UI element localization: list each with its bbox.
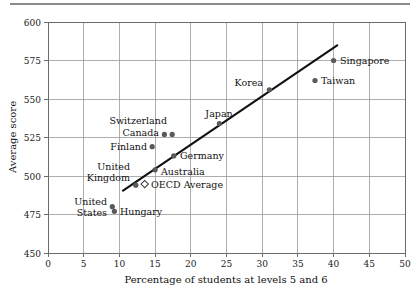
y-tick-label: 525 xyxy=(24,133,41,143)
x-tick-label: 30 xyxy=(256,259,268,269)
data-label-oecd-average: OECD Average xyxy=(151,179,223,190)
data-point-finland[interactable] xyxy=(150,144,155,149)
x-tick-label: 40 xyxy=(328,259,340,269)
data-label-japan: Japan xyxy=(204,108,232,119)
y-tick-label: 550 xyxy=(24,95,41,105)
data-point-oecd-average[interactable] xyxy=(141,180,148,187)
data-point-singapore[interactable] xyxy=(331,58,336,63)
data-label-taiwan: Taiwan xyxy=(321,75,355,86)
y-axis-title: Average score xyxy=(7,101,18,174)
data-label-singapore: Singapore xyxy=(340,55,390,66)
y-tick-label: 450 xyxy=(24,249,41,259)
data-label-finland: Finland xyxy=(110,141,147,152)
data-label-switzerland: Switzerland xyxy=(109,115,167,126)
data-label-united-states-line1: United xyxy=(74,196,107,207)
data-point-united-kingdom[interactable] xyxy=(133,183,138,188)
data-label-united-kingdom-line1: United xyxy=(97,161,130,172)
x-tick-label: 45 xyxy=(364,259,376,269)
data-point-switzerland[interactable] xyxy=(170,132,175,137)
scatter-chart-figure: 600 575 550 525 500 475 450 0 5 10 15 20… xyxy=(0,0,420,290)
x-tick-label: 20 xyxy=(185,259,197,269)
data-point-canada[interactable] xyxy=(162,132,167,137)
x-tick-label: 0 xyxy=(45,259,51,269)
y-tick-label: 600 xyxy=(24,18,41,28)
x-axis-tick-labels: 0 5 10 15 20 25 30 35 40 45 50 xyxy=(45,259,411,269)
data-label-united-states-line2: States xyxy=(77,207,107,218)
data-label-united-kingdom-line2: Kingdom xyxy=(87,172,130,183)
x-tick-label: 25 xyxy=(221,259,233,269)
data-label-canada: Canada xyxy=(123,127,160,138)
x-tick-label: 35 xyxy=(292,259,304,269)
x-tick-label: 15 xyxy=(149,259,161,269)
x-axis-tickmarks xyxy=(48,253,405,257)
data-label-korea: Korea xyxy=(235,77,264,88)
data-label-australia: Australia xyxy=(160,166,205,177)
data-point-labels: Singapore Taiwan Korea Japan Switzerland… xyxy=(74,55,389,218)
chart-canvas: 600 575 550 525 500 475 450 0 5 10 15 20… xyxy=(0,0,420,290)
x-axis-title: Percentage of students at levels 5 and 6 xyxy=(124,274,327,285)
y-tick-label: 475 xyxy=(24,210,41,220)
y-tick-label: 500 xyxy=(24,172,41,182)
data-point-australia[interactable] xyxy=(153,167,158,172)
data-point-germany[interactable] xyxy=(171,153,176,158)
data-label-germany: Germany xyxy=(180,150,225,161)
x-tick-label: 5 xyxy=(81,259,87,269)
data-point-united-states[interactable] xyxy=(110,204,115,209)
data-point-hungary[interactable] xyxy=(112,209,117,214)
x-tick-label: 10 xyxy=(114,259,126,269)
data-point-taiwan[interactable] xyxy=(312,78,317,83)
y-axis-tickmarks xyxy=(44,22,48,253)
y-axis-tick-labels: 600 575 550 525 500 475 450 xyxy=(24,18,41,259)
y-tick-label: 575 xyxy=(24,56,41,66)
data-point-japan[interactable] xyxy=(217,121,222,126)
data-label-hungary: Hungary xyxy=(120,206,163,217)
data-point-korea[interactable] xyxy=(267,87,272,92)
x-tick-label: 50 xyxy=(399,259,411,269)
